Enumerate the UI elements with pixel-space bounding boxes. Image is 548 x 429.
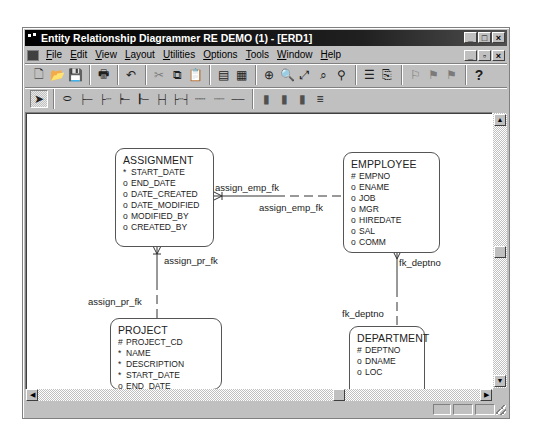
attribute: oSAL xyxy=(351,226,439,237)
copy-icon[interactable]: ⧉ xyxy=(168,66,186,84)
menu-layout[interactable]: Layout xyxy=(121,47,159,63)
attribute: oMGR xyxy=(351,204,439,215)
paste-icon[interactable]: 📋 xyxy=(186,66,204,84)
arrange-icon[interactable]: ⎘ xyxy=(378,66,396,84)
status-panel-3 xyxy=(475,404,495,415)
relation-tool-7-icon[interactable]: ┄┄ xyxy=(191,90,209,108)
find-next-icon[interactable]: ⚲ xyxy=(332,66,350,84)
relationship-label[interactable]: assign_emp_fk xyxy=(259,202,323,213)
menu-bar: File Edit View Layout Utilities Options … xyxy=(25,47,507,63)
app-window: Entity Relationship Diagrammer RE DEMO (… xyxy=(22,27,510,419)
zoom-in-icon[interactable]: ⊕ xyxy=(260,66,278,84)
menu-window[interactable]: Window xyxy=(273,47,317,63)
attribute: oLOC xyxy=(357,367,424,378)
relationship-label[interactable]: assign_emp_fk xyxy=(215,182,279,193)
entity-title: ASSIGNMENT xyxy=(123,154,213,166)
attribute: oMODIFIED_BY xyxy=(123,211,213,222)
fill-color-icon[interactable]: ▮ xyxy=(257,90,275,108)
attribute: oCREATED_BY xyxy=(123,222,213,233)
horizontal-scroll-thumb[interactable] xyxy=(333,389,345,401)
attribute: *DESCRIPTION xyxy=(118,359,221,370)
cut-icon[interactable]: ✂ xyxy=(150,66,168,84)
relationship-label[interactable]: fk_deptno xyxy=(399,257,441,268)
relation-tool-9-icon[interactable]: ── xyxy=(229,90,247,108)
grid-icon[interactable]: ▦ xyxy=(232,66,250,84)
relation-tool-6-icon[interactable]: ├┄┤ xyxy=(172,90,190,108)
menu-file[interactable]: File xyxy=(42,47,66,63)
entity-title: EMPPLOYEE xyxy=(351,158,439,170)
attribute: oJOB xyxy=(351,193,439,204)
vertical-scrollbar[interactable]: ▲ ▼ xyxy=(493,113,507,388)
select-pointer-icon[interactable]: ➤ xyxy=(30,90,48,108)
entity-department[interactable]: DEPARTMENT #DEPTNO oDNAME oLOC xyxy=(349,326,425,390)
entity-assignment[interactable]: ASSIGNMENT *START_DATE oEND_DATE oDATE_C… xyxy=(115,148,214,247)
diagram-canvas[interactable]: ASSIGNMENT *START_DATE oEND_DATE oDATE_C… xyxy=(25,112,493,390)
entity-project[interactable]: PROJECT #PROJECT_CD *NAME *DESCRIPTION *… xyxy=(110,318,222,390)
horizontal-scrollbar[interactable]: ◀ ▶ xyxy=(26,389,492,401)
zoom-out-icon[interactable]: 🔍 xyxy=(278,66,296,84)
attribute: oHIREDATE xyxy=(351,215,439,226)
entity-tool-icon[interactable]: ⬭ xyxy=(58,90,76,108)
window-title: Entity Relationship Diagrammer RE DEMO (… xyxy=(41,32,312,44)
relationship-label[interactable]: fk_deptno xyxy=(342,308,384,319)
doc-close-button[interactable]: × xyxy=(492,50,505,61)
entity-employee[interactable]: EMPPLOYEE #EMPNO oENAME oJOB oMGR oHIRED… xyxy=(343,152,440,253)
maximize-button[interactable]: □ xyxy=(478,32,491,43)
help-icon[interactable]: ? xyxy=(470,66,488,84)
close-button[interactable]: × xyxy=(492,32,505,43)
undo-icon[interactable]: ↶ xyxy=(122,66,140,84)
minimize-button[interactable]: _ xyxy=(464,32,477,43)
relation-tool-4-icon[interactable]: ┠─ xyxy=(134,90,152,108)
flag3-icon[interactable]: ⚑ xyxy=(442,66,460,84)
flag2-icon[interactable]: ⚑ xyxy=(424,66,442,84)
attribute: oEND_DATE xyxy=(123,178,213,189)
attribute: oENAME xyxy=(351,182,439,193)
relation-tool-2-icon[interactable]: ├┄ xyxy=(96,90,114,108)
attribute: #DEPTNO xyxy=(357,345,424,356)
entity-title: PROJECT xyxy=(118,324,221,336)
attribute: oCOMM xyxy=(351,237,439,248)
flag-icon[interactable]: ⚐ xyxy=(406,66,424,84)
scroll-down-button[interactable]: ▼ xyxy=(494,375,506,387)
status-panel-1 xyxy=(433,404,451,415)
new-icon[interactable]: 🗋 xyxy=(30,66,48,84)
status-bar xyxy=(25,403,507,416)
find-icon[interactable]: ⌕ xyxy=(314,66,332,84)
menu-view[interactable]: View xyxy=(91,47,121,63)
attribute: *NAME xyxy=(118,348,221,359)
resize-grip[interactable] xyxy=(496,405,506,415)
diagram-toolbar: ➤ ⬭ ├─ ├┄ ┝─ ┠─ ├┤ ├┄┤ ┄┄ ┈┈ ── ▮ ▮ ▮ ≡ xyxy=(25,88,507,110)
scroll-left-button[interactable]: ◀ xyxy=(26,389,38,401)
relation-tool-5-icon[interactable]: ├┤ xyxy=(153,90,171,108)
attribute: *START_DATE xyxy=(118,370,221,381)
scroll-right-button[interactable]: ▶ xyxy=(480,389,492,401)
relation-tool-3-icon[interactable]: ┝─ xyxy=(115,90,133,108)
relationship-label[interactable]: assign_pr_fk xyxy=(88,296,142,307)
fit-to-window-icon[interactable]: ⤢ xyxy=(296,66,314,84)
align-icon[interactable]: ☰ xyxy=(360,66,378,84)
menu-edit[interactable]: Edit xyxy=(66,47,91,63)
attribute: #PROJECT_CD xyxy=(118,337,221,348)
title-bar[interactable]: Entity Relationship Diagrammer RE DEMO (… xyxy=(25,30,507,46)
relation-tool-8-icon[interactable]: ┈┈ xyxy=(210,90,228,108)
relationship-label[interactable]: assign_pr_fk xyxy=(164,255,218,266)
save-icon[interactable]: 💾 xyxy=(66,66,84,84)
menu-help[interactable]: Help xyxy=(317,47,346,63)
menu-tools[interactable]: Tools xyxy=(242,47,273,63)
text-color-icon[interactable]: ▮ xyxy=(293,90,311,108)
status-panel-2 xyxy=(453,404,473,415)
attribute: #EMPNO xyxy=(351,171,439,182)
columns-icon[interactable]: ▤ xyxy=(214,66,232,84)
open-icon[interactable]: 📂 xyxy=(48,66,66,84)
font-icon[interactable]: ≡ xyxy=(311,90,329,108)
relation-tool-1-icon[interactable]: ├─ xyxy=(77,90,95,108)
document-icon[interactable] xyxy=(27,50,39,61)
menu-utilities[interactable]: Utilities xyxy=(159,47,199,63)
menu-options[interactable]: Options xyxy=(199,47,241,63)
scroll-up-button[interactable]: ▲ xyxy=(494,114,506,126)
line-color-icon[interactable]: ▮ xyxy=(275,90,293,108)
print-icon[interactable]: 🖶 xyxy=(94,66,112,84)
doc-restore-button[interactable]: ▫ xyxy=(478,50,491,61)
doc-minimize-button[interactable]: _ xyxy=(464,50,477,61)
vertical-scroll-thumb[interactable] xyxy=(494,246,506,258)
